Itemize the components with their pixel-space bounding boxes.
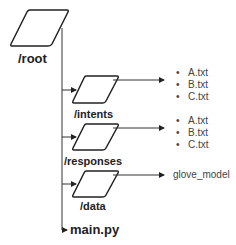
list-item: B.txt [174, 79, 209, 91]
list-item: A.txt [174, 67, 209, 79]
list-item: C.txt [174, 91, 209, 103]
data-folder-shape [73, 171, 119, 197]
list-item: A.txt [174, 115, 209, 127]
root-folder-label: /root [18, 51, 47, 66]
main-py-label: main.py [70, 222, 119, 237]
intents-folder-shape [73, 76, 119, 103]
list-item: B.txt [174, 127, 209, 139]
list-item: C.txt [174, 139, 209, 151]
responses-folder-shape [73, 124, 119, 150]
responses-folder-label: /responses [64, 155, 122, 167]
root-folder-shape [11, 10, 69, 46]
intents-folder-label: /intents [74, 108, 113, 120]
data-folder-label: /data [80, 200, 106, 212]
glove-model-label: glove_model [173, 169, 230, 180]
responses-file-list: A.txt B.txt C.txt [174, 115, 209, 151]
intents-file-list: A.txt B.txt C.txt [174, 67, 209, 103]
